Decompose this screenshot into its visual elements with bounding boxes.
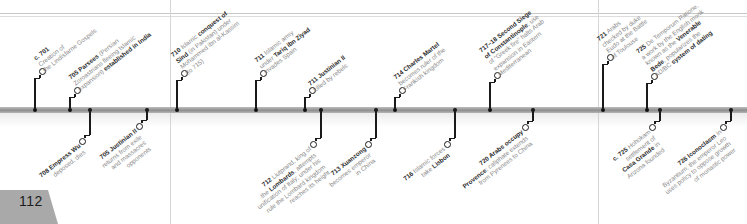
connector-stem [69, 97, 70, 109]
connector-stem [489, 82, 490, 109]
connector-jog [395, 97, 400, 98]
connector-stem [320, 109, 321, 138]
event-marker-icon [649, 124, 656, 131]
connector-jog [647, 83, 652, 84]
timeline-bar-shadow [0, 113, 747, 127]
connector-stem [260, 77, 261, 80]
connector-jog [316, 138, 321, 139]
connector-stem [315, 138, 316, 141]
connector-stem [399, 94, 400, 97]
connector-stem [654, 121, 655, 124]
connector-stem [89, 109, 90, 135]
event-label-l711a: 711 Islamic armyunder Tariq ibn Ziyadinv… [253, 20, 316, 76]
connector-stem [370, 138, 371, 141]
connector-jog [85, 135, 90, 136]
connector-jog [490, 82, 495, 83]
event-label-l712: 712 Liutprand, king ofthe Lombards, atte… [246, 145, 331, 223]
connector-stem [725, 121, 726, 124]
connector-jog [528, 121, 533, 122]
event-marker-icon [522, 124, 529, 131]
connector-jog [177, 80, 182, 81]
page-number: 112 [19, 193, 43, 209]
connector-stem [454, 109, 455, 138]
event-label-l726: 726 Iconoclasm inByzantium: the emperor … [654, 128, 737, 202]
event-label-l713: 713 Xuanzongbecomes emperorin China [323, 145, 377, 194]
connector-jog [70, 97, 75, 98]
connector-jog [142, 120, 147, 121]
event-label-l711b: 711 Justinian IIkilled by rebels [307, 53, 352, 93]
connector-stem [375, 109, 376, 138]
event-marker-icon [79, 138, 86, 145]
connector-stem [494, 79, 495, 82]
connector-stem [309, 94, 310, 97]
connector-stem [532, 109, 533, 121]
connector-stem [39, 75, 40, 78]
connector-stem [651, 80, 652, 83]
connector-stem [449, 138, 450, 141]
connector-stem [659, 109, 660, 121]
event-marker-icon [720, 124, 727, 131]
connector-jog [603, 64, 608, 65]
connector-jog [726, 121, 731, 122]
connector-stem [255, 80, 256, 109]
connector-jog [35, 78, 40, 79]
connector-stem [181, 77, 182, 80]
connector-stem [646, 83, 647, 109]
connector-stem [304, 97, 305, 109]
event-label-l725b: c. 725 Hohokamsettlement ofCasa Grande i… [611, 128, 666, 180]
event-marker-icon [444, 141, 451, 148]
connector-stem [141, 120, 142, 123]
connector-jog [256, 80, 261, 81]
event-marker-icon [310, 141, 317, 148]
connector-stem [34, 78, 35, 109]
event-label-l716: 716 Islamic forcestake Lisbon [402, 145, 451, 188]
connector-stem [602, 64, 603, 109]
connector-jog [371, 138, 376, 139]
connector-stem [74, 94, 75, 97]
event-marker-icon [136, 123, 143, 130]
event-label-l720: 720 Arabs occupyProvence; caliphate exte… [456, 128, 534, 196]
connector-jog [450, 138, 455, 139]
connector-stem [146, 109, 147, 120]
connector-stem [394, 97, 395, 109]
connector-stem [84, 135, 85, 138]
event-label-l708: 708 Empress Wudeposed, dies [37, 142, 86, 185]
connector-stem [730, 109, 731, 121]
connector-stem [176, 80, 177, 109]
event-label-l710: 710 Islamic conquest ofSind (in Pakistan… [169, 7, 245, 76]
connector-stem [607, 61, 608, 64]
event-label-l705b: 705 Justinian IIreturns from exileand ma… [96, 127, 153, 181]
connector-jog [655, 121, 660, 122]
connector-jog [305, 97, 310, 98]
event-marker-icon [365, 141, 372, 148]
event-label-l714: 714 Charles Martelbecomes ruler of theFr… [392, 40, 451, 93]
connector-stem [527, 121, 528, 124]
